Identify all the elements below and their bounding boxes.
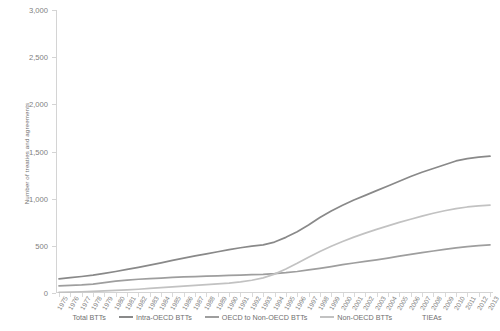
y-axis-tick-labels: 05001,0001,5002,0002,5003,000: [0, 0, 52, 331]
y-tick-mark: [52, 10, 56, 11]
legend-label: Total BTTs: [72, 313, 106, 322]
legend-swatch-icon: [205, 316, 219, 318]
legend-item[interactable]: OECD to Non-OECD BTTs: [205, 313, 307, 322]
legend-swatch-icon: [55, 316, 69, 318]
y-tick-mark: [52, 104, 56, 105]
y-tick-mark: [52, 152, 56, 153]
legend-swatch-icon: [320, 316, 334, 318]
legend-label: Non-OECD BTTs: [337, 313, 392, 322]
y-tick-mark: [52, 246, 56, 247]
legend-item[interactable]: Total BTTs: [55, 313, 106, 322]
y-tick-label: 3,000: [29, 6, 48, 15]
legend-item[interactable]: Intra-OECD BTTs: [119, 313, 192, 322]
y-tick-label: 2,500: [29, 53, 48, 62]
y-tick-mark: [52, 293, 56, 294]
legend-swatch-icon: [405, 316, 419, 318]
legend-label: OECD to Non-OECD BTTs: [222, 313, 307, 322]
plot-area: [56, 10, 493, 293]
series-line: [59, 245, 490, 286]
series-line: [59, 156, 490, 279]
series-line: [59, 205, 490, 292]
series-lines: [56, 10, 493, 293]
y-tick-label: 1,000: [29, 194, 48, 203]
y-tick-mark: [52, 199, 56, 200]
y-tick-label: 2,000: [29, 100, 48, 109]
legend-label: TIEAs: [422, 313, 442, 322]
chart-legend: Total BTTsIntra-OECD BTTsOECD to Non-OEC…: [0, 309, 497, 325]
legend-label: Intra-OECD BTTs: [136, 313, 192, 322]
y-tick-label: 1,500: [29, 147, 48, 156]
y-tick-label: 0: [44, 289, 48, 298]
y-tick-label: 500: [35, 241, 48, 250]
legend-item[interactable]: TIEAs: [405, 313, 442, 322]
legend-swatch-icon: [119, 316, 133, 318]
legend-item[interactable]: Non-OECD BTTs: [320, 313, 392, 322]
y-tick-mark: [52, 57, 56, 58]
